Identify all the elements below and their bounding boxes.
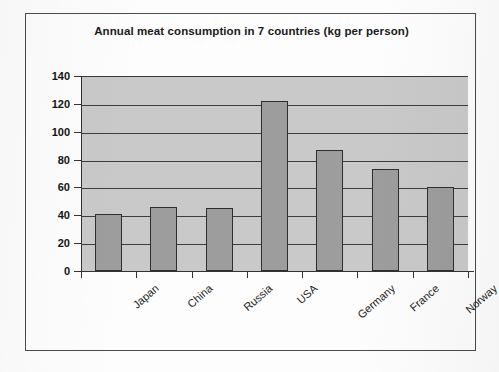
x-axis-label-france: France xyxy=(407,282,441,314)
bar-usa xyxy=(261,101,288,271)
plot-area xyxy=(81,76,468,271)
y-axis-tick-label: 140 xyxy=(36,70,70,82)
x-axis-tick-mark xyxy=(81,271,82,278)
bar-russia xyxy=(206,208,233,271)
x-axis-label-germany: Germany xyxy=(355,282,397,321)
y-axis-tick-labels: 140120100806040200 xyxy=(34,14,70,352)
y-axis-line xyxy=(81,76,82,272)
plot-area-wrapper xyxy=(81,76,468,271)
y-axis-tick-mark xyxy=(74,271,81,272)
x-axis-label-china: China xyxy=(185,282,215,310)
x-axis-tick-mark xyxy=(413,271,414,278)
y-axis-tick-mark xyxy=(74,187,81,188)
y-axis-tick-mark xyxy=(74,160,81,161)
x-axis-tick-mark xyxy=(136,271,137,278)
y-axis-tick-mark xyxy=(74,76,81,77)
bar-france xyxy=(372,169,399,271)
x-axis-tick-mark xyxy=(357,271,358,278)
y-axis-tick-label: 40 xyxy=(36,209,70,221)
y-axis-tick-mark xyxy=(74,132,81,133)
y-axis-tick-mark xyxy=(74,104,81,105)
x-axis-tick-mark xyxy=(192,271,193,278)
bar-japan xyxy=(95,214,122,271)
bar-china xyxy=(150,207,177,271)
chart-frame: Annual meat consumption in 7 countries (… xyxy=(25,13,476,351)
y-axis-tick-mark xyxy=(74,243,81,244)
chart-title: Annual meat consumption in 7 countries (… xyxy=(26,25,477,37)
x-axis-label-norway: Norway xyxy=(463,282,499,316)
bar-norway xyxy=(427,187,454,271)
x-axis-tick-mark xyxy=(302,271,303,278)
y-axis-tick-label: 80 xyxy=(36,154,70,166)
x-axis-label-japan: Japan xyxy=(130,282,161,311)
y-axis-tick-label: 120 xyxy=(36,98,70,110)
y-axis-tick-mark xyxy=(74,215,81,216)
x-axis-tick-mark xyxy=(468,271,469,278)
scanned-page: Annual meat consumption in 7 countries (… xyxy=(0,0,499,372)
bar-germany xyxy=(316,150,343,271)
x-axis-label-russia: Russia xyxy=(241,282,274,313)
y-axis-tick-label: 20 xyxy=(36,237,70,249)
x-axis-line xyxy=(74,271,474,272)
y-axis-tick-label: 0 xyxy=(36,265,70,277)
y-axis-tick-label: 60 xyxy=(36,181,70,193)
y-axis-tick-label: 100 xyxy=(36,126,70,138)
x-axis-label-usa: USA xyxy=(294,282,319,306)
x-axis-tick-mark xyxy=(247,271,248,278)
